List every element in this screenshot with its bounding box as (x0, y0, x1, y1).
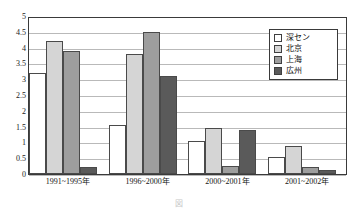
chart-legend: 深セン北京上海広州 (269, 29, 338, 80)
x-axis: 1991~1995年1996~2000年2000~2001年2001~2002年 (28, 177, 347, 193)
bar-3-1 (160, 76, 177, 174)
y-axis-tick-label: 3 (2, 76, 26, 84)
y-axis-tick-label: 4 (2, 45, 26, 53)
legend-swatch-icon (274, 45, 282, 53)
y-axis: 54.543.532.521.510.50 (0, 0, 26, 208)
bar-0-2 (188, 141, 205, 174)
y-axis-tick-label: 1 (2, 139, 26, 147)
bar-0-0 (29, 73, 46, 174)
bar-1-2 (205, 128, 222, 174)
legend-item-label: 北京 (286, 45, 302, 53)
bar-1-3 (285, 146, 302, 174)
gridline (29, 175, 346, 176)
bar-3-3 (319, 170, 336, 174)
bar-1-1 (126, 54, 143, 174)
y-axis-tick-label: 0.5 (2, 155, 26, 163)
legend-item-0: 深セン (274, 32, 334, 43)
x-axis-tick-label: 2001~2002年 (267, 177, 347, 187)
bar-chart: 54.543.532.521.510.50 1991~1995年1996~200… (0, 0, 358, 208)
bar-3-2 (239, 130, 256, 174)
legend-swatch-icon (274, 34, 282, 42)
bar-1-0 (46, 41, 63, 174)
legend-item-3: 広州 (274, 65, 334, 76)
x-axis-tick-label: 1996~2000年 (108, 177, 188, 187)
legend-item-1: 北京 (274, 43, 334, 54)
y-axis-tick-label: 5 (2, 13, 26, 21)
legend-item-label: 上海 (286, 56, 302, 64)
y-axis-tick-label: 4.5 (2, 29, 26, 37)
legend-item-2: 上海 (274, 54, 334, 65)
bar-0-1 (109, 125, 126, 174)
legend-swatch-icon (274, 56, 282, 64)
x-axis-tick-label: 1991~1995年 (28, 177, 108, 187)
bar-2-0 (63, 51, 80, 174)
bar-2-1 (143, 32, 160, 174)
legend-item-label: 広州 (286, 67, 302, 75)
figure-caption: 図 (0, 199, 358, 208)
bar-3-0 (80, 167, 97, 174)
y-axis-tick-label: 2 (2, 108, 26, 116)
legend-item-label: 深セン (286, 34, 310, 42)
bar-0-3 (268, 157, 285, 174)
y-axis-tick-label: 2.5 (2, 92, 26, 100)
legend-swatch-icon (274, 67, 282, 75)
y-axis-tick-label: 0 (2, 171, 26, 179)
y-axis-tick-label: 3.5 (2, 60, 26, 68)
bar-2-2 (222, 166, 239, 174)
y-axis-tick-label: 1.5 (2, 124, 26, 132)
bar-2-3 (302, 167, 319, 174)
x-axis-tick-label: 2000~2001年 (188, 177, 268, 187)
